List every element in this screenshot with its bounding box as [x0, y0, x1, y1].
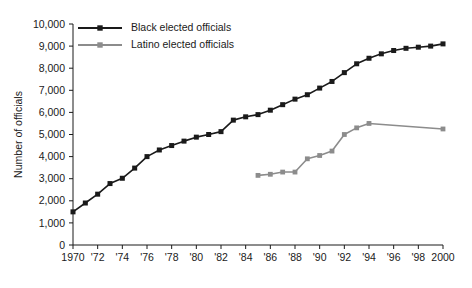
- data-point-marker: [268, 108, 273, 113]
- data-point-marker: [280, 170, 285, 175]
- data-point-marker: [305, 92, 310, 97]
- data-point-marker: [219, 129, 224, 134]
- data-point-marker: [243, 114, 248, 119]
- data-point-marker: [354, 61, 359, 66]
- x-tick-label: '82: [214, 251, 228, 263]
- x-tick-label: '90: [313, 251, 327, 263]
- data-point-marker: [108, 181, 113, 186]
- data-point-marker: [206, 132, 211, 137]
- data-point-marker: [367, 121, 372, 126]
- y-axis-title-label: Number of officials: [12, 91, 24, 178]
- x-tick-label: '92: [337, 251, 351, 263]
- data-point-marker: [169, 143, 174, 148]
- data-point-marker: [330, 149, 335, 154]
- data-point-marker: [145, 154, 150, 159]
- data-point-marker: [132, 166, 137, 171]
- data-point-marker: [157, 147, 162, 152]
- data-point-marker: [256, 112, 261, 117]
- data-point-marker: [428, 44, 433, 49]
- x-tick-label: '84: [239, 251, 253, 263]
- data-point-marker: [379, 51, 384, 56]
- y-tick-label: 1,000: [39, 217, 65, 229]
- x-tick-label: '76: [140, 251, 154, 263]
- data-point-marker: [404, 46, 409, 51]
- data-point-marker: [182, 139, 187, 144]
- data-point-marker: [342, 132, 347, 137]
- y-tick-label: 7,000: [39, 84, 65, 96]
- data-point-marker: [256, 173, 261, 178]
- x-tick-label: '78: [165, 251, 179, 263]
- data-point-marker: [83, 201, 88, 206]
- legend-label: Black elected officials: [131, 21, 231, 33]
- y-tick-label: 2,000: [39, 194, 65, 206]
- data-point-marker: [194, 135, 199, 140]
- data-point-marker: [293, 170, 298, 175]
- y-tick-label: 0: [59, 239, 65, 251]
- chart-container: 01,0002,0003,0004,0005,0006,0007,0008,00…: [0, 0, 472, 288]
- data-point-marker: [95, 192, 100, 197]
- data-point-marker: [391, 48, 396, 53]
- data-point-marker: [416, 45, 421, 50]
- data-point-marker: [268, 172, 273, 177]
- x-tick-label: 2000: [431, 251, 455, 263]
- data-point-marker: [317, 153, 322, 158]
- y-tick-label: 3,000: [39, 172, 65, 184]
- data-point-marker: [293, 97, 298, 102]
- x-tick-label: '96: [387, 251, 401, 263]
- y-tick-label: 9,000: [39, 40, 65, 52]
- line-chart: 01,0002,0003,0004,0005,0006,0007,0008,00…: [0, 0, 472, 288]
- y-tick-label: 5,000: [39, 128, 65, 140]
- data-point-marker: [317, 86, 322, 91]
- data-point-marker: [367, 56, 372, 61]
- data-point-marker: [305, 156, 310, 161]
- y-tick-label: 6,000: [39, 106, 65, 118]
- y-tick-label: 10,000: [33, 18, 65, 30]
- data-point-marker: [120, 176, 125, 181]
- y-axis-title: Number of officials: [12, 91, 24, 178]
- data-point-marker: [71, 209, 76, 214]
- x-tick-label: '74: [115, 251, 129, 263]
- x-tick-label: '86: [263, 251, 277, 263]
- legend-marker: [97, 42, 102, 47]
- x-tick-label: '98: [411, 251, 425, 263]
- y-tick-label: 8,000: [39, 62, 65, 74]
- y-tick-label: 4,000: [39, 150, 65, 162]
- data-point-marker: [354, 125, 359, 130]
- data-point-marker: [441, 127, 446, 132]
- x-tick-label: '72: [91, 251, 105, 263]
- data-point-marker: [330, 79, 335, 84]
- x-tick-label: '80: [189, 251, 203, 263]
- legend-marker: [97, 25, 102, 30]
- data-point-marker: [280, 102, 285, 107]
- data-point-marker: [342, 70, 347, 75]
- data-point-marker: [231, 118, 236, 123]
- x-tick-label: '94: [362, 251, 376, 263]
- x-tick-label: '88: [288, 251, 302, 263]
- legend-label: Latino elected officials: [131, 38, 234, 50]
- data-point-marker: [441, 41, 446, 46]
- x-tick-label: 1970: [61, 251, 85, 263]
